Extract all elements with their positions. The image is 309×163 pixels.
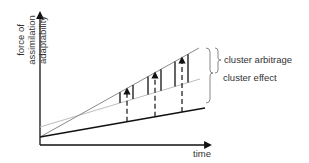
- y-axis-label: force of assimilation adaptability: [15, 0, 48, 80]
- cluster-effect-label: cluster effect: [223, 72, 277, 83]
- cluster-arbitrage-brace: [215, 48, 221, 73]
- arbitrage-gap-markers: [120, 54, 188, 103]
- cluster-effect-brace: [206, 48, 213, 103]
- cluster-effect-arrows: [127, 60, 182, 122]
- y-axis-label-line1: force of assimilation: [15, 0, 37, 80]
- x-axis-label: time: [193, 148, 211, 159]
- cluster-arbitrage-label: cluster arbitrage: [224, 54, 292, 65]
- y-axis-label-line2: adaptability: [37, 0, 48, 80]
- baseline-black-line: [40, 108, 205, 137]
